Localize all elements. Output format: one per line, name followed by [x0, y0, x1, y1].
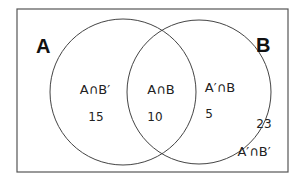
- region-neither-value: 23: [256, 117, 271, 131]
- region-both-value: 10: [147, 110, 162, 124]
- region-both-label: A∩B: [147, 82, 174, 97]
- region-a-only-value: 15: [88, 110, 103, 124]
- region-neither-label: A′∩B′: [237, 144, 270, 159]
- region-b-only-label: A′∩B: [205, 80, 235, 95]
- region-b-only-value: 5: [205, 107, 213, 121]
- venn-diagram: A B A∩B′ 15 A∩B 10 A′∩B 5 23 A′∩B′: [0, 0, 304, 183]
- set-a-label: A: [36, 35, 50, 57]
- set-b-label: B: [256, 34, 270, 56]
- region-a-only-label: A∩B′: [80, 82, 110, 97]
